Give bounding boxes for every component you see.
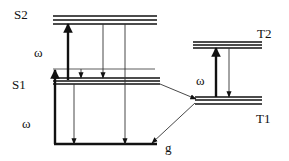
omega-label-g-s1: ω (22, 116, 31, 131)
level-label-s1: S1 (12, 77, 26, 92)
level-label-s2: S2 (14, 7, 28, 22)
arrow-isc-s1-to-t1 (160, 84, 196, 99)
arrow-phosphorescence-t1-to-g (152, 103, 195, 143)
level-label-t2: T2 (257, 26, 271, 41)
energy-level-diagram: S2 S1 T2 T1 g ω ω ω (0, 0, 289, 161)
omega-label-t1-t2: ω (196, 73, 205, 88)
level-label-g: g (165, 140, 172, 155)
energy-levels (53, 16, 262, 144)
level-label-t1: T1 (256, 111, 270, 126)
omega-label-s1-s2: ω (34, 45, 43, 60)
